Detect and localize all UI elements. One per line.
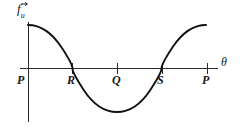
x-tick-label-S: S: [157, 74, 164, 86]
y-axis-label-subscript-group: u: [21, 5, 25, 21]
y-axis-label-subscript: u: [21, 11, 25, 20]
x-tick-label-Q: Q: [112, 74, 121, 86]
plot-area: [0, 0, 240, 127]
chart-figure: f u θ P R Q S P: [0, 0, 240, 127]
x-tick-label-P-left: P: [17, 74, 24, 86]
vector-arrow-icon: [21, 2, 28, 6]
y-axis-label: f u: [17, 2, 25, 18]
x-axis-label: θ: [221, 56, 227, 68]
x-tick-label-P-right: P: [202, 74, 209, 86]
x-tick-label-R: R: [67, 74, 75, 86]
